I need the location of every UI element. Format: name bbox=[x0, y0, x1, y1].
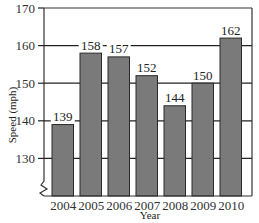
data-label-2009: 150 bbox=[193, 68, 213, 83]
bar-2004 bbox=[52, 125, 74, 196]
bar-2010 bbox=[220, 38, 242, 196]
bar-chart: 130140150160170 200420052006200720082009… bbox=[0, 0, 259, 223]
y-axis-title: Speed (mph) bbox=[6, 86, 19, 143]
x-tick-label: 2010 bbox=[218, 198, 244, 213]
x-axis-title: Year bbox=[140, 209, 161, 221]
data-label-2010: 162 bbox=[221, 23, 241, 38]
y-tick-label: 150 bbox=[16, 76, 36, 91]
bar-2007 bbox=[136, 76, 158, 196]
y-tick-label: 160 bbox=[16, 38, 36, 53]
x-tick-label: 2005 bbox=[78, 198, 104, 213]
data-label-2006: 157 bbox=[109, 41, 129, 56]
bar-2008 bbox=[164, 106, 186, 196]
y-axis-ticks: 130140150160170 bbox=[16, 1, 45, 166]
y-tick-label: 170 bbox=[16, 1, 36, 16]
x-tick-label: 2009 bbox=[190, 198, 216, 213]
data-label-2008: 144 bbox=[165, 90, 185, 105]
x-tick-label: 2006 bbox=[106, 198, 133, 213]
y-tick-label: 140 bbox=[16, 113, 36, 128]
bar-2006 bbox=[108, 57, 130, 196]
x-tick-label: 2004 bbox=[50, 198, 77, 213]
bar-2005 bbox=[80, 53, 102, 196]
axis-break-icon bbox=[40, 8, 47, 196]
data-label-2004: 139 bbox=[53, 109, 73, 124]
y-tick-label: 130 bbox=[16, 151, 36, 166]
bar-2009 bbox=[192, 83, 214, 196]
x-tick-label: 2008 bbox=[162, 198, 188, 213]
data-label-2007: 152 bbox=[137, 60, 157, 75]
data-label-2005: 158 bbox=[81, 38, 101, 53]
